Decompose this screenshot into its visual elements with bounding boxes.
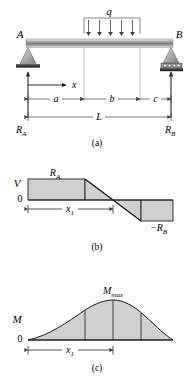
reaction-label-rb: RB bbox=[164, 124, 176, 138]
reaction-label-ra-main: R bbox=[15, 124, 22, 135]
distributed-load-group bbox=[84, 18, 140, 36]
dimension-label-a: a bbox=[54, 93, 59, 104]
roller-support-base bbox=[160, 68, 183, 71]
dimension-label-b: b bbox=[110, 93, 115, 104]
figure-svg: q A B bbox=[0, 0, 195, 378]
shear-positive-block bbox=[28, 179, 85, 200]
pin-support-base bbox=[16, 64, 40, 68]
caption-c: (c) bbox=[92, 363, 103, 374]
panel-moment-diagram: M 0 Mmax x1 (c) bbox=[11, 285, 173, 374]
beam-body bbox=[26, 39, 173, 48]
reaction-label-ra-sub: A bbox=[21, 130, 27, 138]
shear-peak-label-sub: A bbox=[55, 173, 61, 181]
shear-min-label-sub: B bbox=[163, 228, 168, 236]
moment-x1-dimension: x1 bbox=[28, 344, 113, 358]
roller-circle-1 bbox=[164, 64, 167, 67]
moment-max-label: Mmax bbox=[102, 285, 124, 299]
shear-min-label-main: −R bbox=[150, 222, 163, 233]
roller-circle-2 bbox=[168, 64, 171, 67]
reaction-label-ra: RA bbox=[15, 124, 27, 138]
moment-curve-area bbox=[28, 300, 173, 340]
roller-support-triangle bbox=[163, 48, 179, 64]
shear-x1-dimension: x1 bbox=[28, 203, 113, 217]
moment-max-label-sub: max bbox=[111, 291, 124, 299]
moment-axis-label: M bbox=[11, 313, 22, 325]
shear-zero-label: 0 bbox=[18, 193, 23, 204]
support-label-b: B bbox=[176, 28, 183, 40]
shear-x1-label-sub: 1 bbox=[70, 209, 74, 217]
roller-circle-3 bbox=[173, 64, 176, 67]
panel-beam-diagram: q A B bbox=[15, 5, 183, 149]
load-label-q: q bbox=[106, 5, 112, 17]
shear-min-label: −RB bbox=[150, 222, 168, 236]
pin-support-triangle bbox=[20, 48, 36, 64]
moment-zero-label: 0 bbox=[18, 333, 23, 344]
caption-b: (b) bbox=[91, 242, 102, 253]
shear-peak-label-main: R bbox=[49, 167, 56, 178]
pin-support-left bbox=[16, 48, 40, 68]
caption-a: (a) bbox=[92, 138, 103, 149]
reaction-label-rb-main: R bbox=[164, 124, 171, 135]
load-bracket bbox=[84, 18, 140, 34]
reaction-label-rb-sub: B bbox=[171, 130, 176, 138]
dimension-row-L: L bbox=[28, 111, 171, 122]
x-axis-label: x bbox=[71, 79, 77, 90]
dimension-row-abc: a b c bbox=[28, 93, 171, 104]
beam-figure: q A B bbox=[0, 0, 195, 378]
dimension-label-c: c bbox=[153, 93, 158, 104]
shear-axis-label: V bbox=[14, 177, 22, 189]
roller-circle-4 bbox=[177, 64, 180, 67]
support-label-a: A bbox=[16, 28, 24, 40]
roller-support-right bbox=[160, 48, 183, 72]
moment-x1-label-sub: 1 bbox=[70, 350, 74, 358]
shear-negative-block bbox=[141, 200, 173, 221]
panel-shear-diagram: V 0 RA −RB x1 (b) bbox=[14, 167, 173, 253]
dimension-label-L: L bbox=[95, 111, 102, 122]
